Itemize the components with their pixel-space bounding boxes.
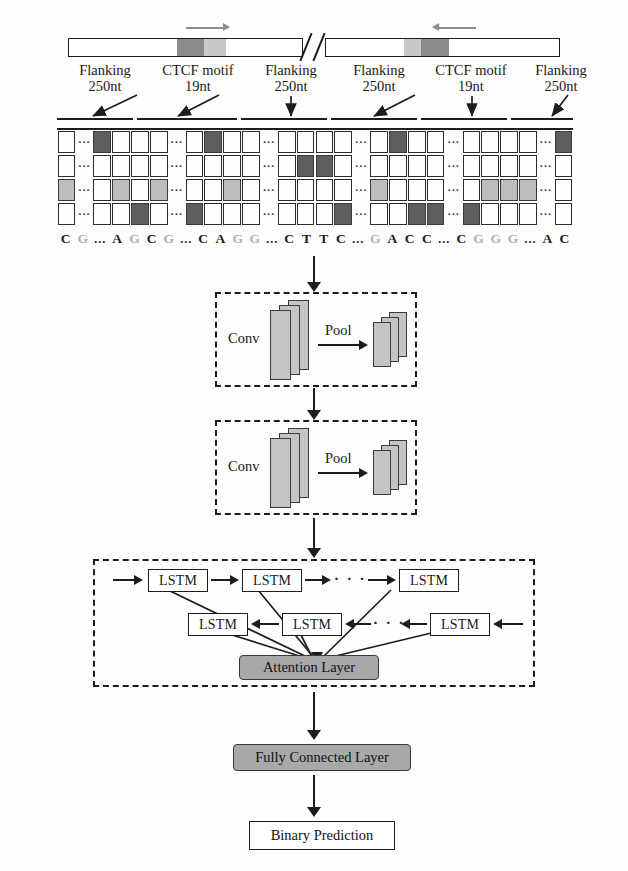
one-hot-cell-on <box>334 203 352 225</box>
one-hot-cell-off <box>204 155 222 177</box>
one-hot-cell-off <box>150 203 168 225</box>
lstm-arrow-f2-ellipsis <box>305 575 331 585</box>
lstm-forward-3: LSTM <box>399 569 459 592</box>
one-hot-cell-on <box>316 155 334 177</box>
lstm-forward-ellipsis: · · · <box>334 571 367 588</box>
sequence-base: A <box>539 230 556 248</box>
segment-rule-4 <box>421 118 507 120</box>
conv2-label: Conv <box>228 458 259 475</box>
one-hot-cell-off <box>297 179 315 201</box>
one-hot-cell-off <box>242 179 260 201</box>
sequence-base: C <box>418 230 435 248</box>
one-hot-cell-on <box>427 203 445 225</box>
lstm-arrow-f1-f2 <box>211 575 239 585</box>
one-hot-cell-mid <box>112 179 130 201</box>
one-hot-ellipsis: ··· <box>261 131 277 153</box>
sequence-base: T <box>315 230 332 248</box>
conv1-pool-label: Pool <box>325 322 352 339</box>
one-hot-ellipsis: ··· <box>538 203 554 225</box>
one-hot-cell-off <box>58 203 76 225</box>
one-hot-cell-off <box>112 155 130 177</box>
one-hot-ellipsis: ··· <box>446 131 462 153</box>
one-hot-ellipsis: ··· <box>353 179 369 201</box>
lstm-backward-1: LSTM <box>188 613 248 636</box>
segment-rule-0 <box>57 118 133 120</box>
lstm-backward-3: LSTM <box>430 613 490 636</box>
one-hot-cell-off <box>278 179 296 201</box>
conv2-pooled-1 <box>373 450 391 495</box>
one-hot-ellipsis: ··· <box>446 179 462 201</box>
conv2-pool-label: Pool <box>325 450 352 467</box>
flow-arrow-conv1-to-conv2 <box>307 388 321 420</box>
one-hot-cell-off <box>408 155 426 177</box>
one-hot-cell-off <box>519 131 537 153</box>
one-hot-cell-on <box>186 203 204 225</box>
sequence-base: G <box>487 230 504 248</box>
one-hot-cell-off <box>555 179 573 201</box>
one-hot-cell-off <box>370 203 388 225</box>
one-hot-cell-off <box>150 155 168 177</box>
one-hot-ellipsis: ··· <box>353 131 369 153</box>
one-hot-ellipsis: ··· <box>261 179 277 201</box>
one-hot-cell-off <box>500 203 518 225</box>
one-hot-cell-off <box>555 203 573 225</box>
one-hot-cell-off <box>186 179 204 201</box>
pointer-arrow-1 <box>178 95 219 116</box>
sequence-base: G <box>126 230 143 248</box>
sequence-base: C <box>195 230 212 248</box>
binary-prediction-block: Binary Prediction <box>249 821 395 850</box>
one-hot-row-G: ·················· <box>57 178 573 202</box>
sequence-ellipsis: … <box>521 230 538 248</box>
one-hot-cell-off <box>278 131 296 153</box>
one-hot-ellipsis: ··· <box>446 155 462 177</box>
one-hot-ellipsis: ··· <box>76 203 92 225</box>
one-hot-cell-off <box>278 203 296 225</box>
one-hot-cell-off <box>93 203 111 225</box>
one-hot-cell-off <box>242 131 260 153</box>
pointer-arrow-0 <box>93 95 137 116</box>
one-hot-cell-off <box>278 155 296 177</box>
figure-canvas: Flanking 250nt CTCF motif 19nt Flanking … <box>0 0 628 871</box>
flow-arrow-grid-to-conv1 <box>307 256 321 292</box>
one-hot-cell-off <box>370 155 388 177</box>
sequence-base: C <box>401 230 418 248</box>
sequence-base: A <box>212 230 229 248</box>
one-hot-cell-off <box>519 155 537 177</box>
sequence-base: G <box>470 230 487 248</box>
sequence-ellipsis: … <box>91 230 108 248</box>
one-hot-cell-off <box>316 131 334 153</box>
segment-rule-3 <box>331 118 417 120</box>
one-hot-cell-off <box>204 203 222 225</box>
sequence-base: C <box>281 230 298 248</box>
one-hot-cell-off <box>131 155 149 177</box>
lstm-forward-1: LSTM <box>148 569 208 592</box>
one-hot-cell-off <box>463 131 481 153</box>
one-hot-cell-off <box>370 131 388 153</box>
sequence-base: G <box>74 230 91 248</box>
flow-arrow-conv2-to-lstm <box>307 518 321 558</box>
one-hot-cell-off <box>389 179 407 201</box>
one-hot-cell-mid <box>519 179 537 201</box>
one-hot-cell-off <box>223 131 241 153</box>
one-hot-cell-off <box>408 179 426 201</box>
segment-pointer-arrows <box>0 0 628 130</box>
one-hot-cell-off <box>316 203 334 225</box>
one-hot-cell-on <box>93 131 111 153</box>
lstm-arrow-ellipsis-f3 <box>368 575 396 585</box>
segment-rule-2 <box>241 118 327 120</box>
one-hot-cell-off <box>427 131 445 153</box>
sequence-base: G <box>504 230 521 248</box>
lstm-backward-2: LSTM <box>282 613 342 636</box>
one-hot-cell-off <box>389 203 407 225</box>
one-hot-cell-off <box>223 155 241 177</box>
one-hot-cell-mid <box>481 179 499 201</box>
one-hot-cell-off <box>186 155 204 177</box>
one-hot-cell-off <box>131 131 149 153</box>
sequence-base: C <box>143 230 160 248</box>
one-hot-row-A: ·················· <box>57 130 573 154</box>
one-hot-ellipsis: ··· <box>538 131 554 153</box>
sequence-base: C <box>57 230 74 248</box>
lstm-arrow-ellipsis-b2 <box>345 619 371 629</box>
one-hot-cell-mid <box>150 179 168 201</box>
pointer-arrow-5 <box>552 95 568 116</box>
